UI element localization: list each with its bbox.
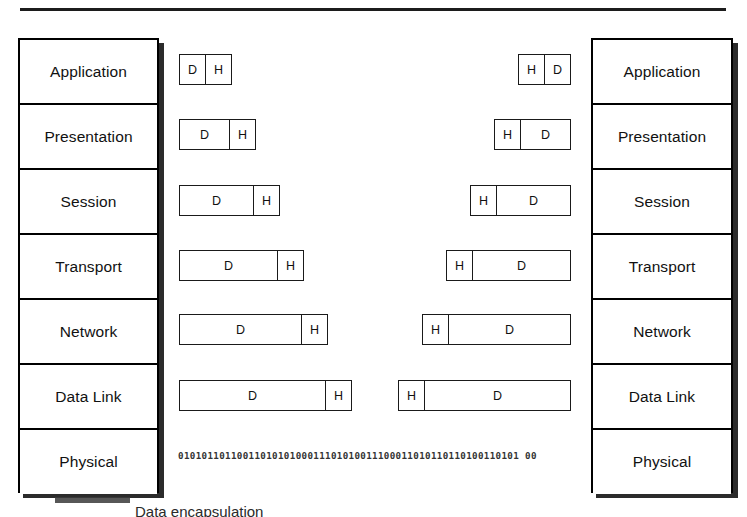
packet-data-cell: D — [180, 186, 253, 215]
layer-label: Data Link — [629, 388, 695, 406]
packet-data-cell: D — [521, 120, 570, 149]
layer-label: Session — [61, 193, 117, 211]
layer-label: Transport — [55, 258, 122, 276]
figure-caption: Data encapsulation — [135, 503, 263, 517]
layer-label: Data Link — [55, 388, 121, 406]
packet-data-cell: D — [180, 251, 277, 280]
sidebar-item-physical-left[interactable]: Physical — [20, 430, 157, 494]
sidebar-item-presentation-right[interactable]: Presentation — [593, 105, 731, 170]
sidebar-item-session-right[interactable]: Session — [593, 170, 731, 235]
sender-packet: DH — [179, 185, 280, 216]
packet-data-cell: D — [497, 186, 570, 215]
sender-packet: DH — [179, 54, 232, 85]
layer-label: Presentation — [44, 128, 132, 146]
packet-data-cell: D — [180, 55, 205, 84]
physical-bitstream: 0101011011001101010100011101010011100011… — [178, 450, 537, 461]
sender-packet: DH — [179, 380, 352, 411]
packet-header-cell: H — [301, 315, 327, 344]
sidebar-item-physical-right[interactable]: Physical — [593, 430, 731, 494]
packet-header-cell: H — [277, 251, 303, 280]
receiver-packet: HD — [398, 380, 571, 411]
packet-header-cell: H — [205, 55, 231, 84]
receiver-packet: HD — [422, 314, 571, 345]
receiver-protocol-stack: Application Presentation Session Transpo… — [591, 38, 733, 493]
caption-smudge — [55, 497, 130, 503]
packet-data-cell: D — [180, 120, 229, 149]
packet-header-cell: H — [495, 120, 521, 149]
layer-label: Application — [624, 63, 701, 81]
receiver-packet: HD — [518, 54, 571, 85]
packet-data-cell: D — [425, 381, 570, 410]
packet-header-cell: H — [471, 186, 497, 215]
sidebar-item-datalink-right[interactable]: Data Link — [593, 365, 731, 430]
sidebar-item-application-left[interactable]: Application — [20, 40, 157, 105]
receiver-packet: HD — [446, 250, 571, 281]
sender-protocol-stack: Application Presentation Session Transpo… — [18, 38, 159, 493]
packet-header-cell: H — [447, 251, 473, 280]
packet-header-cell: H — [399, 381, 425, 410]
packet-data-cell: D — [180, 315, 301, 344]
layer-label: Session — [634, 193, 690, 211]
layer-label: Physical — [59, 453, 118, 471]
layer-label: Network — [633, 323, 691, 341]
packet-header-cell: H — [519, 55, 545, 84]
sidebar-item-presentation-left[interactable]: Presentation — [20, 105, 157, 170]
layer-label: Physical — [633, 453, 692, 471]
packet-data-cell: D — [180, 381, 325, 410]
receiver-packet: HD — [494, 119, 571, 150]
packet-data-cell: D — [545, 55, 570, 84]
sender-packet: DH — [179, 119, 256, 150]
sender-packet: DH — [179, 250, 304, 281]
sender-packet: DH — [179, 314, 328, 345]
packet-header-cell: H — [253, 186, 279, 215]
packet-header-cell: H — [325, 381, 351, 410]
sidebar-item-application-right[interactable]: Application — [593, 40, 731, 105]
packet-data-cell: D — [449, 315, 570, 344]
packet-data-cell: D — [473, 251, 570, 280]
sidebar-item-datalink-left[interactable]: Data Link — [20, 365, 157, 430]
sidebar-item-transport-right[interactable]: Transport — [593, 235, 731, 300]
layer-label: Presentation — [618, 128, 706, 146]
layer-label: Transport — [629, 258, 696, 276]
receiver-packet: HD — [470, 185, 571, 216]
packet-header-cell: H — [423, 315, 449, 344]
sidebar-item-session-left[interactable]: Session — [20, 170, 157, 235]
packet-header-cell: H — [229, 120, 255, 149]
sidebar-item-transport-left[interactable]: Transport — [20, 235, 157, 300]
sidebar-item-network-right[interactable]: Network — [593, 300, 731, 365]
layer-label: Network — [60, 323, 118, 341]
layer-label: Application — [50, 63, 127, 81]
sidebar-item-network-left[interactable]: Network — [20, 300, 157, 365]
diagram-canvas: Application Presentation Session Transpo… — [0, 0, 747, 517]
top-divider-rule — [20, 8, 726, 11]
